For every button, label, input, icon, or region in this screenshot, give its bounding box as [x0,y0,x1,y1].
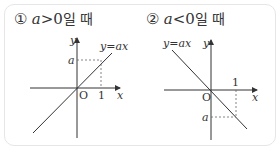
graph-a-positive: y y=ax a O 1 x [30,34,129,138]
svg-text:y: y [69,34,77,47]
graph-a-negative: y=ax y 1 O x a [162,37,259,140]
svg-text:a: a [202,111,209,124]
svg-text:a: a [68,54,75,67]
svg-text:y=ax: y=ax [162,37,192,50]
svg-text:1: 1 [98,89,105,102]
svg-text:y=ax: y=ax [99,40,129,53]
svg-text:1: 1 [232,76,239,89]
svg-text:x: x [252,91,259,104]
svg-text:x: x [117,89,124,102]
graphs: y y=ax a O 1 x y=ax y 1 O x a [0,0,279,152]
svg-text:O: O [79,89,88,102]
svg-text:y: y [202,37,210,50]
svg-text:O: O [202,91,211,104]
